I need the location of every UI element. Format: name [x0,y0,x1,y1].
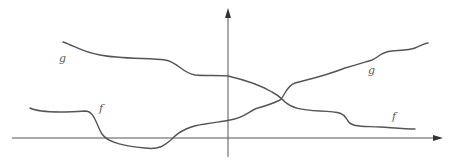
diagram-canvas [0,0,449,165]
x-axis-arrow-icon [433,135,443,141]
label-f-left: f [99,103,103,114]
curve-upper-left [63,42,415,129]
label-g-right: g [368,65,375,76]
curve-lower-left [30,43,428,148]
label-g-left: g [59,53,66,64]
y-axis-arrow-icon [225,8,231,18]
label-f-right: f [392,111,396,122]
